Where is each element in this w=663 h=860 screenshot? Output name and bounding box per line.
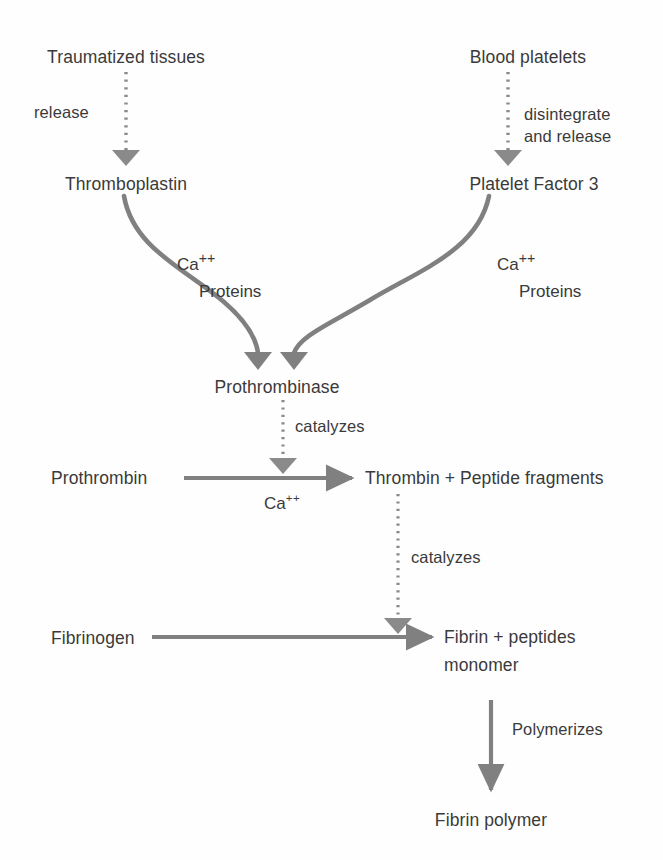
edge-label-disintegrate-line2: and release [524, 125, 611, 147]
edge-label-polymerizes: Polymerizes [512, 718, 603, 740]
node-fibrin-polymer: Fibrin polymer [435, 808, 547, 832]
node-fibrinogen: Fibrinogen [51, 626, 135, 650]
edge-traumatized-to-thromboplastin [112, 72, 140, 166]
node-fibrin-peptides: Fibrin + peptides [444, 625, 576, 649]
cofactor-thrombin-calcium: Ca++ [264, 492, 300, 514]
cofactor-left-calcium: Ca++ [177, 255, 215, 274]
node-prothrombin: Prothrombin [51, 466, 147, 490]
edge-label-release: release [34, 101, 89, 123]
cofactor-right-calcium: Ca++ [497, 255, 535, 274]
edge-label-disintegrate-line1: disintegrate [524, 103, 611, 125]
cofactor-right-proteins: Proteins [497, 278, 581, 305]
edge-label-catalyzes-thrombin: catalyzes [411, 546, 481, 568]
coagulation-cascade-diagram: Traumatized tissues Blood platelets Thro… [0, 0, 663, 860]
calcium-charge-right: ++ [519, 250, 536, 266]
cofactor-right: Ca++ Proteins [497, 245, 581, 305]
node-thromboplastin: Thromboplastin [65, 172, 187, 196]
node-platelet-factor-3: Platelet Factor 3 [469, 172, 598, 196]
edge-label-catalyzes-prothrombinase: catalyzes [295, 415, 365, 437]
node-traumatized-tissues: Traumatized tissues [47, 45, 205, 69]
edge-thrombin-catalyzes [384, 494, 412, 634]
edge-factor3-to-prothrombinase [280, 196, 489, 370]
node-blood-platelets: Blood platelets [470, 45, 586, 69]
edge-prothrombinase-catalyzes [269, 400, 297, 474]
node-prothrombinase: Prothrombinase [215, 375, 340, 399]
calcium-charge-thrombin: ++ [286, 492, 300, 504]
calcium-charge-left: ++ [199, 250, 216, 266]
cofactor-left-proteins: Proteins [177, 278, 261, 305]
node-thrombin-products: Thrombin + Peptide fragments [365, 466, 604, 490]
cofactor-left: Ca++ Proteins [177, 245, 261, 305]
edge-platelets-to-factor3 [494, 72, 522, 166]
node-fibrin-monomer: monomer [444, 653, 519, 677]
